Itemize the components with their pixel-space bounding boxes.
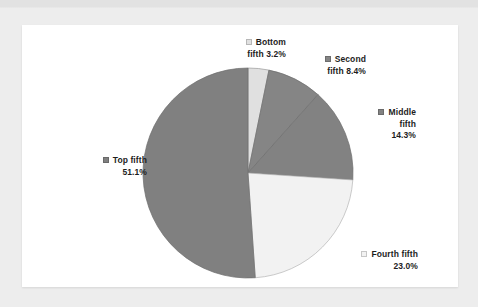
- pie-label-second-fifth-text2: fifth 8.4%: [296, 66, 366, 78]
- pie-label-top-fifth-line1: Top fifth: [63, 155, 147, 167]
- pie-label-bottom-fifth-text1: Bottom: [256, 37, 286, 47]
- legend-swatch-middle-fifth: [378, 109, 384, 115]
- pie-label-second-fifth-line1: Second: [296, 54, 366, 66]
- pie-label-fourth-fifth-text2: 23.0%: [330, 261, 418, 273]
- legend-swatch-second-fifth: [325, 56, 331, 62]
- pie-label-top-fifth: Top fifth 51.1%: [63, 155, 147, 178]
- pie-label-second-fifth-text1: Second: [335, 54, 366, 64]
- slice-top-fifth[interactable]: [143, 68, 255, 278]
- pie-label-fourth-fifth: Fourth fifth 23.0%: [330, 249, 418, 272]
- pie-chart: Bottom fifth 3.2% Second fifth 8.4% Midd…: [0, 0, 478, 307]
- pie-label-bottom-fifth: Bottom fifth 3.2%: [216, 37, 286, 60]
- pie-label-fourth-fifth-line1: Fourth fifth: [330, 249, 418, 261]
- pie-label-bottom-fifth-line1: Bottom: [216, 37, 286, 49]
- pie-label-top-fifth-text2: 51.1%: [63, 167, 147, 179]
- page-background: Bottom fifth 3.2% Second fifth 8.4% Midd…: [0, 0, 478, 307]
- pie-label-fourth-fifth-text1: Fourth fifth: [371, 249, 418, 259]
- pie-label-top-fifth-text1: Top fifth: [113, 155, 147, 165]
- pie-label-second-fifth: Second fifth 8.4%: [296, 54, 366, 77]
- pie-label-middle-fifth-text3: 14.3%: [344, 130, 416, 142]
- pie-label-middle-fifth-text1: Middle: [388, 107, 416, 117]
- pie-label-bottom-fifth-text2: fifth 3.2%: [216, 49, 286, 61]
- pie-slices: [143, 68, 353, 278]
- legend-swatch-fourth-fifth: [361, 251, 367, 257]
- pie-label-middle-fifth-text2: fifth: [344, 119, 416, 131]
- legend-swatch-top-fifth: [103, 157, 109, 163]
- pie-label-middle-fifth: Middle fifth 14.3%: [344, 107, 416, 142]
- pie-label-middle-fifth-line1: Middle: [344, 107, 416, 119]
- legend-swatch-bottom-fifth: [246, 39, 252, 45]
